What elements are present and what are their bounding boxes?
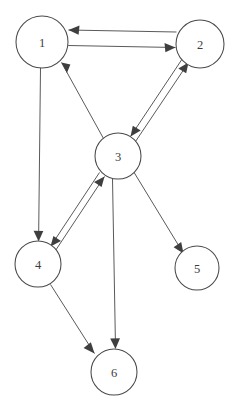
node-3[interactable]: 3 [95,133,141,179]
node-layer: 1 2 3 4 5 6 [15,16,224,395]
node-label: 5 [194,262,200,276]
arrowhead-to-6 [110,338,120,349]
edge-3-to-2 [136,63,189,142]
edge-line [131,59,183,137]
edge-2-to-1 [69,26,177,35]
edge-4-to-3 [56,177,105,251]
graph-canvas: 1 2 3 4 5 6 [0,0,238,420]
edge-2-to-3 [131,59,183,137]
edge-layer [34,26,189,354]
edge-line [68,46,175,48]
node-label: 4 [35,258,42,272]
node-label: 1 [39,36,45,50]
edge-3-to-4 [51,173,100,247]
arrowhead-to-4 [34,231,44,242]
edge-line [51,173,100,247]
node-1[interactable]: 1 [16,16,68,68]
edge-line [134,172,184,254]
edge-line [51,285,95,354]
node-label: 2 [197,38,203,52]
edge-line [62,63,104,139]
node-label: 6 [111,366,117,380]
arrowhead-to-6 [84,342,95,353]
arrowhead-to-3 [131,126,141,137]
arrowhead-to-1 [69,26,80,35]
directed-graph: 1 2 3 4 5 6 [0,0,238,420]
node-4[interactable]: 4 [15,241,61,287]
node-6[interactable]: 6 [91,349,137,395]
edge-3-to-5 [134,172,184,254]
edge-1-to-4 [34,68,44,242]
arrowhead-to-2 [165,43,176,52]
edge-line [56,177,105,251]
edge-line [113,179,116,348]
node-2[interactable]: 2 [176,20,224,68]
node-label: 3 [115,150,121,164]
edge-3-to-6 [110,179,120,349]
edge-3-to-1 [62,63,104,139]
edge-4-to-6 [51,285,95,354]
node-5[interactable]: 5 [175,246,219,290]
edge-line [39,68,41,240]
edge-line [69,30,177,32]
edge-line [136,63,189,142]
edge-1-to-2 [68,43,175,52]
